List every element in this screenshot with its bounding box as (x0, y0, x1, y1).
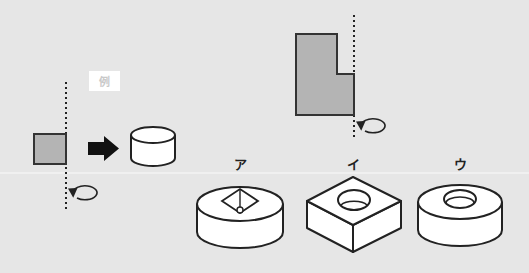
rotation-arrow-icon (73, 186, 97, 200)
l-shape (296, 34, 354, 115)
transform-arrow-icon (88, 136, 119, 161)
choice-u-solid (418, 185, 502, 246)
square-shape (34, 134, 66, 164)
rotation-arrow-icon (361, 119, 385, 133)
example-cylinder (131, 127, 175, 166)
choice-i-solid (307, 177, 401, 252)
problem-figure (296, 15, 385, 140)
example-figure (34, 82, 97, 210)
choice-a-solid (197, 187, 283, 248)
